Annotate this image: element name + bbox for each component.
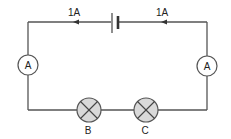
lamp-c: C (134, 98, 158, 136)
lamp-b-label: B (85, 125, 92, 136)
current-label-left: 1A (68, 7, 81, 18)
lamp-b: B (77, 98, 101, 136)
current-label-right: 1A (156, 7, 169, 18)
ammeter-left-label: A (25, 60, 32, 71)
ammeter-right-label: A (204, 61, 211, 72)
lamp-c-label: C (141, 125, 148, 136)
cell-icon (112, 13, 118, 33)
wires (28, 22, 207, 110)
ammeter-left: A (18, 55, 38, 75)
ammeter-right: A (197, 56, 217, 76)
circuit-diagram: 1A 1A A A B C (0, 0, 231, 139)
current-arrow-right-icon (161, 20, 167, 25)
current-arrow-left-icon (73, 20, 79, 25)
